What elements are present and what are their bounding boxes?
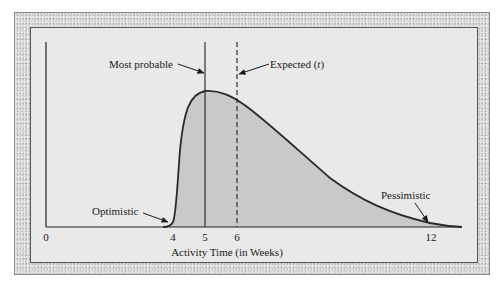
expected-label: Expected (t): [270, 58, 324, 71]
tick-6: 6: [234, 231, 240, 243]
tick-0: 0: [43, 231, 49, 243]
most-probable-label: Most probable: [109, 58, 173, 70]
expected-arrow: [239, 64, 269, 74]
most-probable-arrow: [178, 64, 204, 73]
tick-5: 5: [202, 231, 208, 243]
beta-distribution-chart: Most probable Expected (t) Optimistic Pe…: [0, 0, 503, 301]
tick-4: 4: [170, 231, 176, 243]
tick-12: 12: [426, 231, 437, 243]
x-axis-title: Activity Time (in Weeks): [171, 246, 283, 259]
optimistic-arrow: [143, 213, 168, 222]
pessimistic-label: Pessimistic: [381, 189, 431, 201]
optimistic-label: Optimistic: [92, 205, 139, 217]
